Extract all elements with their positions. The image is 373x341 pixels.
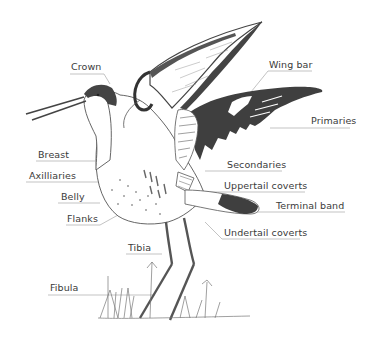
- label-belly: Belly: [61, 192, 85, 202]
- extended-wing: [190, 87, 322, 160]
- label-breast: Breast: [38, 150, 69, 160]
- label-undertail-coverts: Undertail coverts: [224, 228, 307, 238]
- label-uppertail-coverts: Uppertail coverts: [224, 181, 307, 191]
- label-wing-bar: Wing bar: [269, 60, 312, 70]
- label-primaries: Primaries: [311, 116, 356, 126]
- label-tibia: Tibia: [128, 243, 151, 253]
- bird-legs: [140, 218, 194, 320]
- label-fibula: Fibula: [50, 283, 79, 293]
- label-secondaries: Secondaries: [227, 160, 286, 170]
- label-terminal-band: Terminal band: [276, 201, 344, 211]
- label-flanks: Flanks: [67, 214, 98, 224]
- label-axilliaries: Axilliaries: [29, 171, 76, 181]
- bird-anatomy-diagram: Crown Wing bar Primaries Breast Axilliar…: [0, 0, 373, 341]
- label-crown: Crown: [71, 62, 101, 72]
